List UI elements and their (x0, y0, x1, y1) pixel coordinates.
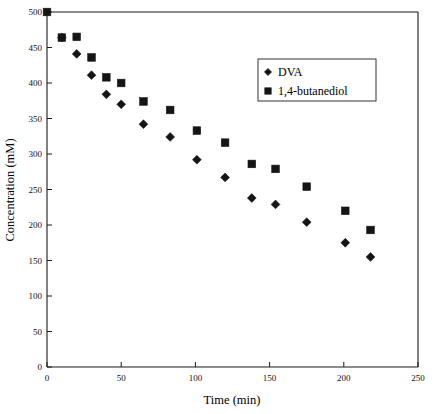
data-point-diamond (341, 238, 350, 247)
y-tick-label: 0 (38, 362, 43, 372)
data-series-layer (43, 8, 375, 261)
data-point-diamond (166, 133, 175, 142)
data-point-square (248, 160, 256, 168)
y-tick-label: 400 (29, 78, 43, 88)
y-tick-label: 300 (29, 149, 43, 159)
y-tick-label: 200 (29, 220, 43, 230)
data-point-diamond (247, 194, 256, 203)
data-point-square (166, 106, 174, 114)
series-1-4-butanediol (43, 8, 374, 234)
data-point-diamond (72, 49, 81, 58)
data-point-square (117, 79, 125, 87)
y-axis-title: Concentration (mM) (3, 138, 17, 241)
x-tick-label: 250 (411, 373, 425, 383)
legend-entry-label: 1,4-butanediol (278, 84, 348, 98)
data-point-diamond (139, 120, 148, 129)
y-tick-label: 350 (29, 114, 43, 124)
data-point-diamond (302, 218, 311, 227)
data-point-square (103, 74, 111, 82)
x-tick-label: 50 (117, 373, 127, 383)
x-tick-label: 100 (189, 373, 203, 383)
data-point-square (140, 98, 148, 106)
y-axis-ticks: 050100150200250300350400450500 (29, 7, 53, 372)
data-point-square (221, 139, 229, 147)
data-point-square (88, 54, 96, 62)
chart-legend: DVA1,4-butanediol (258, 59, 376, 101)
data-point-diamond (366, 253, 375, 262)
data-point-square (341, 207, 349, 215)
data-point-diamond (271, 200, 280, 209)
data-point-square (272, 165, 280, 173)
data-point-diamond (192, 155, 201, 164)
data-point-diamond (221, 173, 230, 182)
data-point-diamond (102, 90, 111, 99)
data-point-square (58, 34, 66, 42)
chart-canvas: 050100150200250300350400450500 050100150… (0, 0, 438, 414)
data-point-square (367, 226, 375, 234)
data-point-square (73, 33, 81, 41)
y-tick-label: 450 (29, 43, 43, 53)
data-point-square (193, 127, 201, 135)
legend-square-icon (265, 88, 271, 94)
y-tick-label: 500 (29, 7, 43, 17)
x-tick-label: 200 (337, 373, 351, 383)
y-tick-label: 50 (33, 327, 43, 337)
y-tick-label: 100 (29, 291, 43, 301)
x-tick-label: 150 (263, 373, 277, 383)
x-axis-title: Time (min) (204, 393, 261, 407)
y-tick-label: 150 (29, 256, 43, 266)
scatter-chart-figure: 050100150200250300350400450500 050100150… (0, 0, 438, 414)
x-tick-label: 0 (45, 373, 50, 383)
data-point-square (43, 8, 51, 16)
x-axis-ticks: 050100150200250 (45, 362, 426, 383)
data-point-diamond (87, 71, 96, 80)
y-tick-label: 250 (29, 185, 43, 195)
legend-entry-label: DVA (278, 65, 303, 79)
data-point-square (303, 183, 311, 191)
data-point-diamond (117, 100, 126, 109)
